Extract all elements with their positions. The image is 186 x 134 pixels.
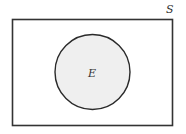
set-e-label: E bbox=[87, 67, 96, 80]
universe-label: S bbox=[166, 3, 174, 16]
venn-diagram: S E bbox=[0, 0, 186, 134]
